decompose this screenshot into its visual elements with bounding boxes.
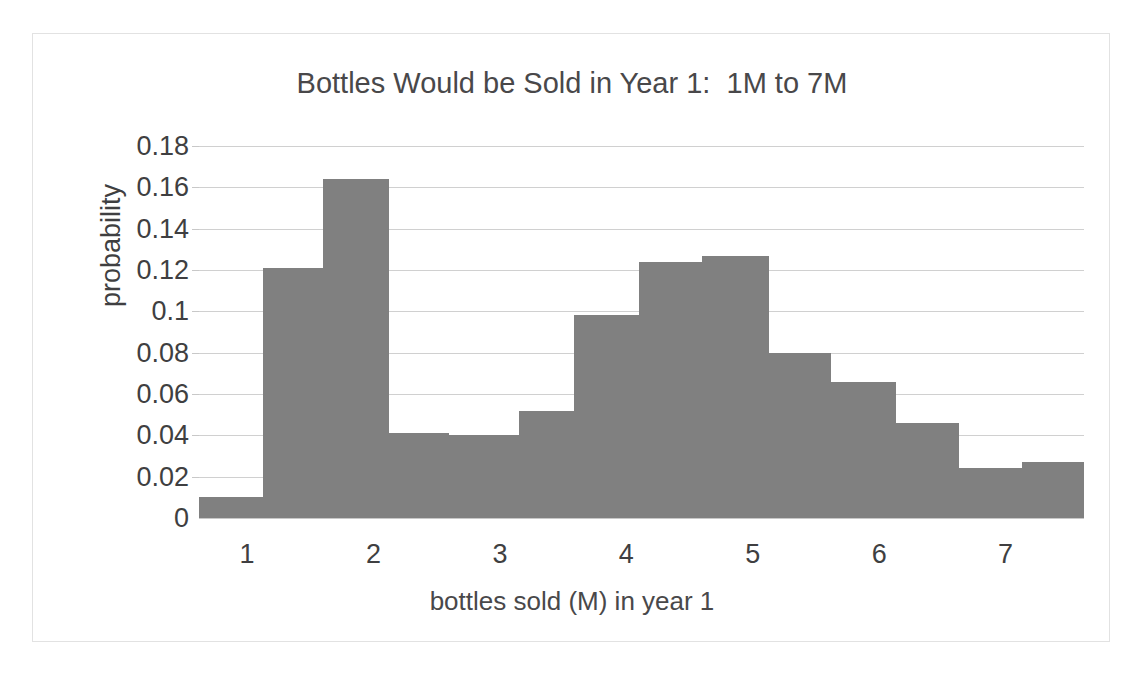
y-axis-tick-mark: [192, 187, 199, 188]
y-axis-tick-label: 0.04: [136, 422, 189, 449]
y-axis-tick-label: 0: [174, 505, 189, 532]
histogram-bar: [896, 423, 959, 518]
histogram-bar: [263, 268, 322, 518]
x-axis-tick-label: 2: [343, 539, 403, 570]
histogram-bar: [199, 497, 263, 518]
y-axis-tick-mark: [192, 353, 199, 354]
histogram-bar: [769, 353, 831, 518]
chart-figure-frame: Bottles Would be Sold in Year 1: 1M to 7…: [32, 33, 1110, 642]
histogram-bars: [199, 146, 1084, 518]
histogram-bar: [389, 433, 450, 518]
plot-area: [199, 146, 1084, 518]
chart-title: Bottles Would be Sold in Year 1: 1M to 7…: [33, 67, 1111, 100]
y-axis-tick-mark: [192, 146, 199, 147]
x-axis-tick-labels: 1234567: [199, 539, 1084, 575]
histogram-bar: [323, 179, 389, 518]
y-axis-tick-labels: 00.020.040.060.080.10.120.140.160.18: [93, 146, 189, 518]
y-axis-tick-mark: [192, 270, 199, 271]
histogram-bar: [574, 315, 638, 518]
y-axis-tick-mark: [192, 394, 199, 395]
x-axis-title: bottles sold (M) in year 1: [33, 586, 1111, 617]
gridline: [199, 518, 1084, 519]
y-axis-tick-label: 0.02: [136, 463, 189, 490]
x-axis-tick-label: 6: [849, 539, 909, 570]
histogram-bar: [959, 468, 1022, 518]
histogram-bar: [639, 262, 702, 518]
histogram-bar: [449, 435, 519, 518]
histogram-bar: [519, 411, 575, 518]
x-axis-tick-label: 7: [976, 539, 1036, 570]
y-axis-tick-mark: [192, 311, 199, 312]
y-axis-tick-mark: [192, 477, 199, 478]
y-axis-tick-label: 0.06: [136, 381, 189, 408]
y-axis-tick-label: 0.08: [136, 339, 189, 366]
x-axis-tick-label: 4: [596, 539, 656, 570]
y-axis-tick-mark: [192, 229, 199, 230]
histogram-bar: [831, 382, 895, 518]
histogram-bar: [702, 256, 769, 518]
y-axis-tick-label: 0.18: [136, 133, 189, 160]
y-axis-tick-label: 0.16: [136, 174, 189, 201]
y-axis-tick-label: 0.1: [151, 298, 189, 325]
y-axis-tick-mark: [192, 435, 199, 436]
histogram-bar: [1022, 462, 1084, 518]
x-axis-tick-label: 1: [217, 539, 277, 570]
y-axis-tick-label: 0.14: [136, 215, 189, 242]
x-axis-tick-label: 5: [723, 539, 783, 570]
x-axis-tick-label: 3: [470, 539, 530, 570]
y-axis-tick-label: 0.12: [136, 257, 189, 284]
